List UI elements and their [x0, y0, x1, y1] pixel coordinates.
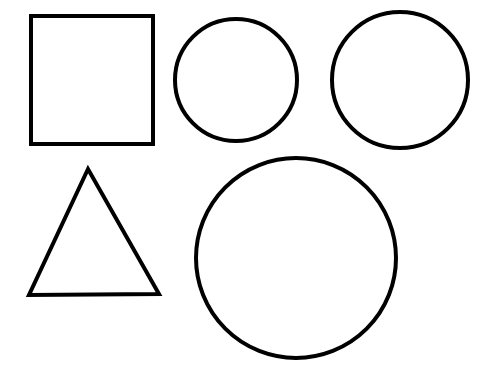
square-shape — [31, 16, 153, 144]
triangle-shape — [29, 169, 159, 295]
circle-shape-large — [196, 158, 396, 358]
shapes-canvas — [0, 0, 496, 383]
circle-shape-small-right — [332, 12, 468, 148]
circle-shape-small-left — [175, 19, 297, 141]
